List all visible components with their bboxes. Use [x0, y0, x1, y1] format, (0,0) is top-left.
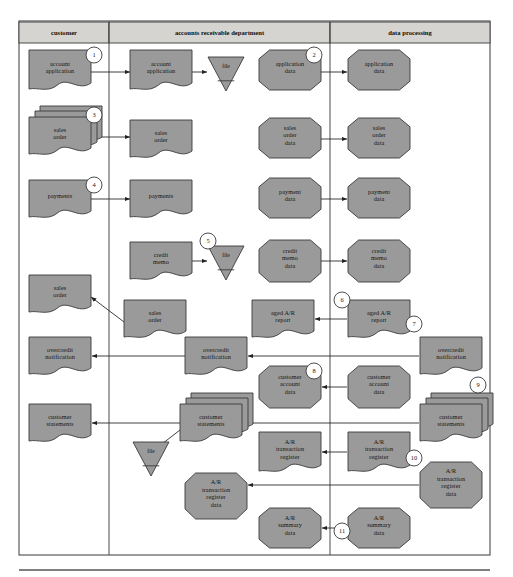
- shape-ar-summary-data-ar: A/Rsummarydata: [259, 508, 321, 548]
- shape-label-line: register: [441, 482, 460, 489]
- shape-label-line: transaction: [365, 445, 393, 452]
- callout-7: 7: [406, 316, 422, 332]
- shape-label-line: data: [374, 67, 385, 74]
- shape-label-line: transaction: [202, 486, 230, 493]
- shape-label-line: sales: [155, 129, 168, 136]
- shape-label-line: application: [147, 67, 176, 74]
- shape-label-line: order: [154, 136, 168, 143]
- shape-label-line: data: [374, 139, 385, 146]
- shape-label-line: statements: [437, 420, 465, 427]
- shape-label-line: data: [285, 67, 296, 74]
- flowchart-canvas: customeraccounts receivable departmentda…: [0, 0, 513, 577]
- shape-label-line: notification: [45, 353, 75, 360]
- shape-label-line: file: [147, 448, 155, 454]
- shape-customer-statements-ar: customerstatements: [180, 393, 253, 441]
- column-header-label-data-processing: data processing: [388, 29, 432, 36]
- shape-customer-account-data-dp: customeraccountdata: [348, 366, 410, 408]
- shape-label-line: order: [283, 131, 297, 138]
- shape-overcredit-notification-dp: overcreditnotification: [420, 337, 482, 374]
- shape-payment-data-dp: paymentdata: [348, 178, 410, 218]
- shape-label-line: data: [285, 139, 296, 146]
- shape-label-line: A/R: [446, 467, 457, 474]
- shape-label-line: data: [374, 262, 385, 269]
- shape-label-line: credit: [372, 247, 387, 254]
- shape-aged-ar-report-dp: aged A/Rreport: [348, 300, 410, 337]
- callout-number: 2: [312, 51, 315, 58]
- shape-label-line: data: [374, 195, 385, 202]
- shape-label-line: register: [206, 493, 225, 500]
- shape-label-line: sales: [149, 309, 162, 316]
- shape-label-line: customer: [199, 413, 222, 420]
- shape-label-line: data: [285, 195, 296, 202]
- shape-label-line: statements: [46, 420, 74, 427]
- shape-label-line: customer: [278, 373, 301, 380]
- shape-label-line: credit: [283, 247, 298, 254]
- shape-label-line: order: [372, 131, 386, 138]
- shape-label-line: application: [365, 60, 394, 67]
- shape-label-line: data: [285, 529, 296, 536]
- callout-number: 1: [92, 51, 95, 58]
- callout-5: 5: [200, 233, 216, 249]
- shape-label-line: file: [222, 63, 230, 69]
- shape-label-line: report: [371, 316, 387, 323]
- shape-label-line: memo: [153, 258, 169, 265]
- callout-2: 2: [306, 47, 322, 63]
- shape-aged-ar-report-ar: aged A/Rreport: [252, 300, 314, 337]
- shape-account-application-ar: accountapplication: [130, 50, 192, 89]
- callout-6: 6: [334, 292, 350, 308]
- shape-label-line: customer: [48, 413, 71, 420]
- shape-label-line: account: [50, 60, 70, 67]
- shape-label-line: transaction: [437, 475, 465, 482]
- shape-label-line: A/R: [211, 478, 222, 485]
- callout-9: 9: [470, 377, 486, 393]
- callout-4: 4: [86, 177, 102, 193]
- shape-label-line: payment: [279, 188, 301, 195]
- shape-label-line: customer: [439, 413, 462, 420]
- callout-number: 10: [411, 454, 417, 461]
- shape-label-line: aged A/R: [271, 309, 296, 316]
- shape-ar-transaction-register-dp: A/Rtransactionregister: [348, 432, 410, 471]
- callout-1: 1: [86, 47, 102, 63]
- shape-label-line: overcredit: [438, 346, 464, 353]
- shape-label-line: account: [151, 60, 171, 67]
- column-header-label-accounts-receivable: accounts receivable department: [175, 29, 265, 36]
- shape-label-line: A/R: [374, 438, 385, 445]
- shape-label-line: order: [53, 133, 67, 140]
- shape-label-line: summary: [367, 521, 392, 528]
- shape-label-line: sales: [284, 124, 297, 131]
- callout-number: 9: [476, 381, 479, 388]
- shape-label-line: application: [46, 67, 75, 74]
- shape-label-line: credit: [154, 251, 169, 258]
- shape-label-line: register: [280, 453, 299, 460]
- shape-sales-order-data-ar: salesorderdata: [259, 118, 321, 158]
- shape-credit-memo-data-ar: creditmemodata: [259, 240, 321, 282]
- shape-ar-transaction-register-data-ar: A/Rtransactionregisterdata: [185, 473, 247, 519]
- shape-label-line: application: [276, 60, 305, 67]
- shape-label-line: data: [374, 388, 385, 395]
- shape-sales-order-ar: salesorder: [130, 120, 192, 157]
- callout-number: 11: [339, 527, 345, 534]
- shape-label-line: A/R: [285, 514, 296, 521]
- shape-sales-order-returned-ar: salesorder: [124, 300, 186, 337]
- shape-label-line: A/R: [285, 438, 296, 445]
- shape-label-line: account: [280, 380, 300, 387]
- shape-label-line: sales: [54, 126, 67, 133]
- shape-ar-transaction-register-data-dp: A/Rtransactionregisterdata: [420, 462, 482, 508]
- shape-label-line: payments: [149, 192, 174, 199]
- shape-label-line: data: [446, 490, 457, 497]
- shape-label-line: sales: [54, 284, 67, 291]
- shape-label-line: file: [222, 252, 230, 258]
- shape-payment-data-ar: paymentdata: [259, 178, 321, 218]
- shape-credit-memo-ar: creditmemo: [130, 242, 192, 279]
- shape-application-data-dp: applicationdata: [348, 50, 410, 90]
- shape-customer-statements-customer: customerstatements: [29, 404, 91, 441]
- callout-number: 6: [340, 296, 343, 303]
- callout-number: 5: [206, 237, 209, 244]
- shape-label-line: notification: [436, 353, 466, 360]
- shape-overcredit-notification-ar: overcreditnotification: [185, 337, 247, 374]
- shape-sales-order-data-dp: salesorderdata: [348, 118, 410, 158]
- shape-label-line: memo: [282, 254, 298, 261]
- shape-label-line: register: [369, 453, 388, 460]
- shape-credit-memo-data-dp: creditmemodata: [348, 240, 410, 282]
- callout-8: 8: [306, 363, 322, 379]
